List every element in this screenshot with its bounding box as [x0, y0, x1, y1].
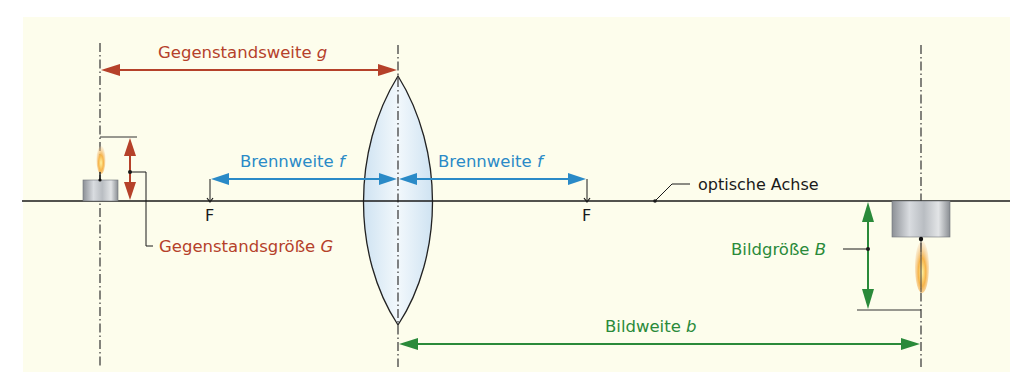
image-distance-label: Bildweite b [605, 317, 697, 336]
focal-length-right-label: Brennweite f [438, 152, 545, 171]
object-distance-label: Gegenstandsweite g [158, 43, 327, 62]
image-size-label: Bildgröße B [731, 240, 826, 259]
focal-point-right-label: F [582, 206, 591, 225]
lens-diagram: optische Achse F F Gegenstandsweite g Br… [0, 0, 1025, 392]
image-candle-body [892, 201, 950, 237]
focal-length-left-label: Brennweite f [240, 152, 347, 171]
focal-point-left-label: F [205, 206, 214, 225]
optical-axis-label: optische Achse [698, 175, 819, 194]
object-candle-body [83, 180, 118, 201]
object-flame-icon [97, 146, 106, 174]
object-size-label: Gegenstandsgröße G [159, 237, 333, 256]
image-flame-icon [915, 241, 929, 293]
